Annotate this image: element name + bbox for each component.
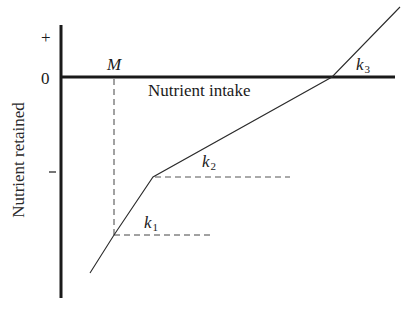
k1-subscript: 1 <box>153 221 159 233</box>
y-tick-plus: + <box>41 29 51 46</box>
x-axis-title: Nutrient intake <box>148 82 250 99</box>
y-axis-title: Nutrient retained <box>9 102 29 218</box>
k3-base: k <box>356 55 364 74</box>
m-label: M <box>107 56 121 73</box>
k2-label: k2 <box>202 153 216 172</box>
k3-subscript: 3 <box>365 63 371 75</box>
y-tick-zero: 0 <box>41 70 50 87</box>
k1-label: k1 <box>144 214 158 233</box>
k1-base: k <box>144 213 152 232</box>
k2-base: k <box>202 152 210 171</box>
k2-subscript: 2 <box>211 160 217 172</box>
k3-label: k3 <box>356 56 370 75</box>
retention-curve <box>90 7 400 273</box>
